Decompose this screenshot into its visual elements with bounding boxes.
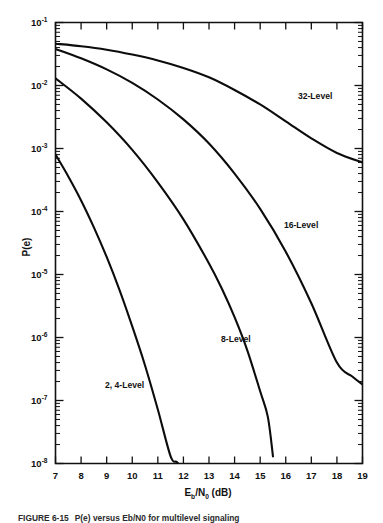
y-tick-exponent: -8: [42, 457, 48, 464]
caption-text: P(e) versus Eb/N0 for multilevel signali…: [75, 513, 240, 523]
x-axis-title-units: (dB): [209, 487, 232, 498]
y-tick-mantissa: 10: [31, 17, 42, 28]
y-tick-exponent: -2: [42, 79, 48, 86]
y-tick-exponent: -7: [42, 394, 48, 401]
y-tick-mantissa: 10: [31, 269, 42, 280]
y-tick-label: 10-3: [31, 142, 48, 154]
x-tick-label: 16: [280, 470, 291, 481]
y-tick-label: 10-6: [31, 331, 48, 343]
x-tick-label: 14: [229, 470, 240, 481]
y-tick-exponent: -3: [42, 142, 48, 149]
data-curves: [56, 44, 363, 470]
series-label-32-level: 32-Level: [298, 91, 332, 101]
y-tick-label: 10-5: [31, 268, 48, 280]
y-tick-label: 10-1: [31, 16, 48, 28]
figure-caption: FIGURE 6-15P(e) versus Eb/N0 for multile…: [18, 513, 240, 523]
y-tick-label: 10-7: [31, 394, 48, 406]
x-tick-label: 13: [204, 470, 215, 481]
x-tick-label: 12: [178, 470, 189, 481]
y-axis-tick-labels: 10-110-210-310-410-510-610-710-8: [31, 16, 48, 469]
svg-text:FIGURE 6-15P(e) versus Eb/N0 f: FIGURE 6-15P(e) versus Eb/N0 for multile…: [18, 513, 240, 523]
y-tick-label: 10-8: [31, 457, 48, 469]
y-tick-label: 10-4: [31, 205, 48, 217]
y-tick-mantissa: 10: [31, 395, 42, 406]
x-tick-label: 10: [127, 470, 138, 481]
y-tick-label: 10-2: [31, 79, 48, 91]
y-tick-mantissa: 10: [31, 332, 42, 343]
y-tick-exponent: -1: [42, 16, 48, 23]
y-tick-exponent: -4: [42, 205, 48, 212]
y-tick-exponent: -5: [42, 268, 48, 275]
caption-prefix: FIGURE 6-15: [18, 513, 69, 523]
svg-text:Eb/N0 (dB): Eb/N0 (dB): [184, 487, 231, 500]
x-tick-label: 8: [78, 470, 83, 481]
y-axis-title: P(e): [21, 238, 32, 257]
x-axis-title: Eb/N0 (dB): [184, 487, 231, 500]
series-label-16-level: 16-Level: [284, 220, 318, 230]
series-label-8-level: 8-Level: [221, 334, 251, 344]
y-tick-mantissa: 10: [31, 80, 42, 91]
curve-2-4-level: [56, 155, 184, 470]
x-axis-title-n: /N: [195, 487, 205, 498]
curve-8-level: [56, 78, 273, 456]
x-tick-label: 15: [255, 470, 266, 481]
figure-container: 10-110-210-310-410-510-610-710-8 7891011…: [0, 0, 383, 523]
y-tick-mantissa: 10: [31, 458, 42, 469]
x-tick-label: 19: [357, 470, 368, 481]
x-tick-label: 17: [306, 470, 317, 481]
x-axis-tick-labels: 78910111213141516171819: [53, 470, 368, 481]
series-label-2-4-level: 2, 4-Level: [105, 380, 144, 390]
y-tick-mantissa: 10: [31, 206, 42, 217]
x-tick-label: 9: [104, 470, 109, 481]
y-tick-mantissa: 10: [31, 143, 42, 154]
chart-svg: 10-110-210-310-410-510-610-710-8 7891011…: [0, 0, 383, 523]
x-tick-label: 18: [332, 470, 343, 481]
y-tick-exponent: -6: [42, 331, 48, 338]
x-tick-label: 7: [53, 470, 58, 481]
x-tick-label: 11: [153, 470, 164, 481]
